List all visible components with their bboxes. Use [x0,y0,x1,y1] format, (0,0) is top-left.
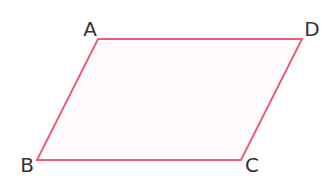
vertex-label-b: B [20,153,34,177]
parallelogram-diagram: A D C B [0,0,335,181]
parallelogram-abcd [37,39,302,160]
vertex-label-d: D [304,17,319,41]
vertex-label-a: A [83,17,97,41]
vertex-label-c: C [245,153,259,177]
